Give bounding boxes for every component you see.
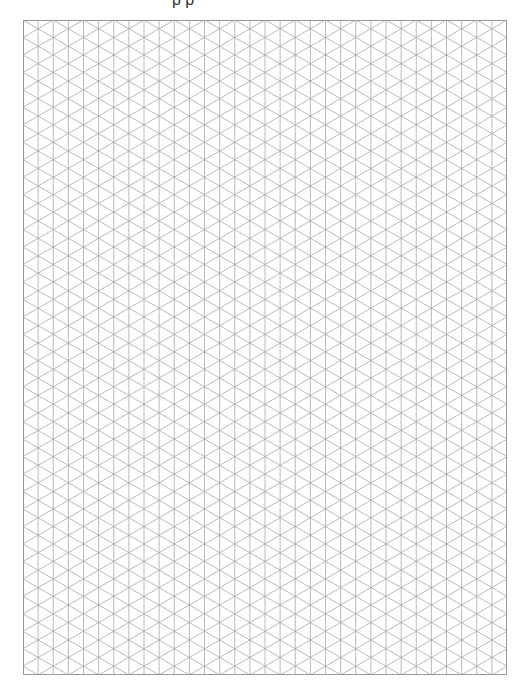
page-title-fragment: p p [172, 0, 194, 9]
isometric-grid-svg [23, 20, 507, 675]
isometric-grid-paper [23, 20, 507, 675]
